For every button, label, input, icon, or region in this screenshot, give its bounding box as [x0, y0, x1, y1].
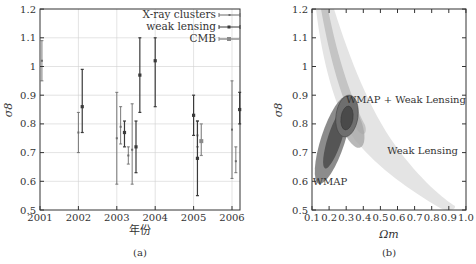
- panel-a-xlabel: 年份: [129, 223, 151, 237]
- legend-xray-marker-icon: [219, 13, 240, 17]
- legend-weak-lensing-label: weak lensing: [146, 20, 216, 32]
- panel-b-caption: (b): [382, 247, 396, 258]
- legend-cmb-label: CMB: [189, 32, 216, 44]
- panel-b-ticks: 0.10.20.30.40.50.60.70.80.91.00.50.60.70…: [292, 4, 474, 223]
- data-point: [119, 107, 122, 144]
- figure: 2001200220032004200520060.50.60.70.80.91…: [0, 0, 476, 264]
- data-point: [234, 147, 237, 173]
- y-tick-label: 0.7: [292, 147, 308, 158]
- x-tick-label: 0.5: [372, 212, 388, 223]
- data-point: [154, 38, 157, 107]
- data-point: [131, 104, 134, 184]
- panel-a-chart: 2001200220032004200520060.50.60.70.80.91…: [2, 4, 245, 258]
- panel-b-xlabel: Ωm: [378, 228, 399, 241]
- y-tick-label: 0.8: [20, 118, 36, 129]
- x-tick-label: 0.9: [441, 212, 457, 223]
- x-tick-label: 2004: [142, 212, 167, 223]
- data-point: [77, 112, 80, 152]
- y-tick-label: 1: [302, 61, 308, 72]
- panel-b-chart: 0.10.20.30.40.50.60.70.80.91.00.50.60.70…: [272, 4, 474, 258]
- y-tick-label: 1: [30, 61, 36, 72]
- data-point: [40, 41, 43, 81]
- data-point: [199, 124, 203, 156]
- x-tick-label: 2003: [104, 212, 129, 223]
- x-tick-label: 2006: [219, 212, 244, 223]
- x-tick-label: 0.3: [338, 212, 354, 223]
- data-point: [123, 121, 126, 147]
- y-tick-label: 1.1: [20, 32, 36, 43]
- panel-b-ylabel: σ8: [272, 103, 285, 118]
- y-tick-label: 0.9: [20, 90, 36, 101]
- data-point: [196, 121, 199, 196]
- panel-a-data: [40, 38, 241, 196]
- x-tick-label: 2002: [66, 212, 91, 223]
- annotation-wmap-weak-lensing: WMAP + Weak Lensing: [346, 94, 467, 105]
- y-tick-label: 0.6: [292, 176, 308, 187]
- y-tick-label: 0.5: [292, 205, 308, 216]
- y-tick-label: 0.8: [292, 118, 308, 129]
- y-tick-label: 1.1: [292, 32, 308, 43]
- x-tick-label: 0.8: [424, 212, 440, 223]
- data-point: [127, 147, 130, 164]
- panel-a-caption: (a): [133, 247, 147, 258]
- legend-xray-label: X-ray clusters: [143, 8, 216, 20]
- y-tick-label: 1.2: [20, 4, 36, 15]
- y-tick-label: 1.2: [292, 4, 308, 15]
- data-point: [115, 92, 118, 184]
- annotation-wmap: WMAP: [313, 176, 348, 187]
- panel-a-legend: X-ray clusters weak lensing CMB: [143, 8, 240, 44]
- x-tick-label: 0.2: [321, 212, 337, 223]
- x-tick-label: 0.4: [355, 212, 371, 223]
- x-tick-label: 0.7: [407, 212, 423, 223]
- panel-a-ylabel: σ8: [2, 103, 15, 118]
- x-tick-label: 0.6: [390, 212, 406, 223]
- annotation-weak-lensing: Weak Lensing: [387, 145, 458, 156]
- y-tick-label: 0.5: [20, 205, 36, 216]
- y-tick-label: 0.6: [20, 176, 36, 187]
- data-point: [134, 121, 137, 173]
- y-tick-label: 0.7: [20, 147, 36, 158]
- legend-weak-lensing-marker-icon: [219, 25, 240, 29]
- data-point: [192, 95, 195, 135]
- data-point: [138, 38, 141, 113]
- x-tick-label: 1.0: [458, 212, 474, 223]
- x-tick-label: 2005: [181, 212, 206, 223]
- data-point: [81, 69, 84, 132]
- y-tick-label: 0.9: [292, 90, 308, 101]
